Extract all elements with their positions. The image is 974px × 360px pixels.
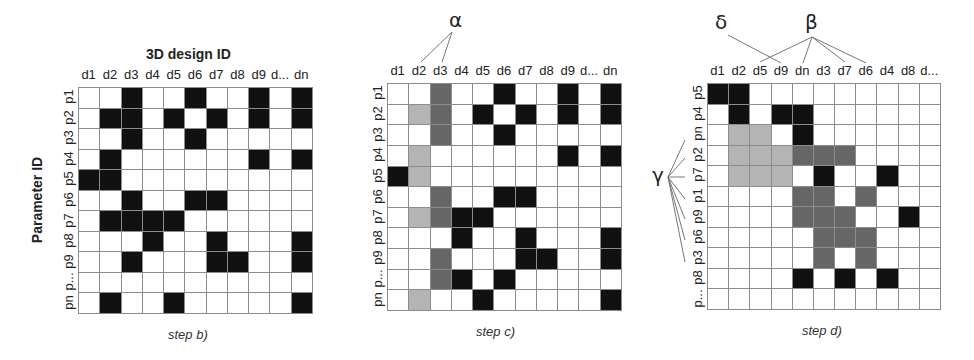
cell-p3-d4 — [452, 125, 473, 146]
cell-p9-d5 — [750, 207, 771, 228]
cell-pn-d9 — [558, 290, 579, 311]
cell-p9-d8 — [537, 249, 558, 270]
cell-p8-d1 — [388, 228, 409, 249]
column-label-d8: d8 — [536, 63, 557, 78]
cell-p3-d1 — [79, 129, 100, 150]
cell-p1-d5 — [750, 187, 771, 208]
cell-pn-d7 — [207, 293, 228, 314]
cell-p5-d4 — [877, 84, 898, 105]
cell-p8-d8 — [899, 269, 920, 290]
cell-p9-d6 — [185, 252, 206, 273]
cell-p...-d9 — [558, 270, 579, 291]
column-label-d3: d3 — [121, 67, 142, 82]
cell-p3-d9 — [772, 248, 793, 269]
gamma-annotation: γ — [652, 163, 664, 187]
cell-p2-d7 — [516, 105, 537, 126]
cell-p5-d1 — [79, 170, 100, 191]
column-label-d...: d... — [919, 63, 940, 78]
cell-p...-dn — [292, 273, 313, 294]
cell-p8-d8 — [537, 228, 558, 249]
cell-p3-d... — [270, 129, 291, 150]
cell-p4-d9 — [558, 146, 579, 167]
cell-p8-d1 — [79, 232, 100, 253]
cell-p1-dn — [601, 84, 622, 105]
column-label-d4: d4 — [142, 67, 163, 82]
cell-p8-d6 — [856, 269, 877, 290]
cell-p7-d1 — [79, 211, 100, 232]
cell-p4-d... — [270, 150, 291, 171]
column-label-d7: d7 — [515, 63, 536, 78]
cell-p3-d8 — [537, 125, 558, 146]
cell-p3-dn — [292, 129, 313, 150]
cell-p9-dn — [793, 207, 814, 228]
cell-p5-d... — [579, 167, 600, 188]
cell-p7-d8 — [537, 208, 558, 229]
cell-p7-d8 — [228, 211, 249, 232]
cell-p1-d8 — [537, 84, 558, 105]
cell-p3-d7 — [516, 125, 537, 146]
cell-p4-dn — [601, 146, 622, 167]
cell-p8-d6 — [185, 232, 206, 253]
cell-pn-d8 — [228, 293, 249, 314]
cell-pn-d2 — [409, 290, 430, 311]
column-label-d9: d9 — [771, 63, 792, 78]
column-label-d6: d6 — [493, 63, 514, 78]
cell-p6-d9 — [249, 191, 270, 212]
column-label-dn: dn — [600, 63, 621, 78]
column-label-d2: d2 — [728, 63, 749, 78]
cell-p8-d9 — [772, 269, 793, 290]
cell-p...-d5 — [750, 289, 771, 310]
cell-p6-d6 — [185, 191, 206, 212]
column-label-d9: d9 — [557, 63, 578, 78]
row-label-pn: pn — [61, 290, 76, 314]
cell-p1-d6 — [494, 84, 515, 105]
cell-p5-d5 — [164, 170, 185, 191]
cell-p...-d8 — [537, 270, 558, 291]
cell-p3-d6 — [856, 248, 877, 269]
column-label-d8: d8 — [227, 67, 248, 82]
cell-p1-d9 — [558, 84, 579, 105]
cell-pn-d4 — [452, 290, 473, 311]
cell-pn-d8 — [537, 290, 558, 311]
cell-p4-d6 — [494, 146, 515, 167]
cell-p2-d9 — [558, 105, 579, 126]
cell-p6-dn — [292, 191, 313, 212]
cell-p6-d7 — [516, 187, 537, 208]
cell-p6-d2 — [100, 191, 121, 212]
cell-pn-dn — [601, 290, 622, 311]
cell-p5-d3 — [122, 170, 143, 191]
panel_d-step-label: step d) — [802, 323, 842, 338]
cell-p4-d6 — [185, 150, 206, 171]
cell-p...-d3 — [431, 270, 452, 291]
column-label-dn: dn — [792, 63, 813, 78]
cell-p6-d9 — [558, 187, 579, 208]
cell-p9-d3 — [431, 249, 452, 270]
cell-p2-d9 — [249, 109, 270, 130]
cell-p4-d8 — [899, 105, 920, 126]
cell-pn-d... — [579, 290, 600, 311]
cell-pn-d4 — [143, 293, 164, 314]
cell-p...-d7 — [516, 270, 537, 291]
cell-p4-d... — [579, 146, 600, 167]
cell-p3-dn — [601, 125, 622, 146]
cell-p3-d2 — [409, 125, 430, 146]
column-label-d7: d7 — [834, 63, 855, 78]
cell-p1-d4 — [452, 84, 473, 105]
row-label-pn: pn — [370, 287, 385, 311]
cell-p2-d8 — [537, 105, 558, 126]
cell-p1-d8 — [228, 88, 249, 109]
cell-p5-d6 — [856, 84, 877, 105]
cell-p...-d4 — [877, 289, 898, 310]
cell-p6-d4 — [452, 187, 473, 208]
cell-p5-d... — [270, 170, 291, 191]
cell-p5-dn — [601, 167, 622, 188]
cell-p8-d4 — [143, 232, 164, 253]
cell-pn-d9 — [249, 293, 270, 314]
cell-p8-d7 — [207, 232, 228, 253]
cell-p8-d5 — [473, 228, 494, 249]
cell-p7-d2 — [100, 211, 121, 232]
cell-p9-d2 — [729, 207, 750, 228]
cell-p5-d1 — [388, 167, 409, 188]
cell-p2-d2 — [409, 105, 430, 126]
cell-p9-d... — [920, 207, 941, 228]
